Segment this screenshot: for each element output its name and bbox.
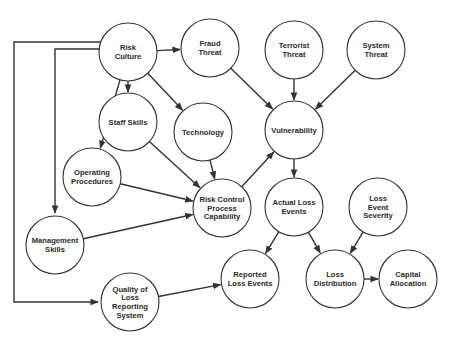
node-vulnerability: Vulnerability xyxy=(265,101,323,159)
node-label-line: Capability xyxy=(204,212,241,221)
edge-management-skills-to-risk-control xyxy=(83,215,192,239)
edge-loss-event-severity-to-loss-distribution xyxy=(350,232,363,253)
edge-actual-loss-events-to-loss-distribution xyxy=(308,232,320,253)
node-operating-procedures: OperatingProcedures xyxy=(63,148,121,206)
node-label-line: Threat xyxy=(198,48,222,57)
edge-technology-to-risk-control xyxy=(210,160,215,179)
node-management-skills: ManagementSkills xyxy=(26,216,84,274)
node-label-line: Threat xyxy=(364,50,388,59)
edge-fraud-threat-to-vulnerability xyxy=(231,68,273,109)
node-terrorist-threat: TerroristThreat xyxy=(265,21,323,79)
node-capital-allocation: CapitalAllocation xyxy=(379,250,437,308)
node-label-line: Technology xyxy=(182,128,225,137)
node-system-threat: SystemThreat xyxy=(347,21,405,79)
edge-system-threat-to-vulnerability xyxy=(316,70,356,109)
node-label-line: Skills xyxy=(45,245,65,254)
node-label-line: Culture xyxy=(115,52,142,61)
node-technology: Technology xyxy=(174,103,232,161)
node-label-line: Allocation xyxy=(390,279,427,288)
node-label-line: Procedures xyxy=(71,177,113,186)
node-label-line: Staff Skills xyxy=(109,118,148,127)
edge-risk-culture-to-technology xyxy=(148,73,183,110)
edge-actual-loss-events-to-reported-loss-events xyxy=(266,232,279,254)
node-loss-distribution: LossDistribution xyxy=(306,250,364,308)
edge-quality-loss-reporting-to-reported-loss-events xyxy=(159,285,221,297)
edge-operating-procedures-to-risk-control xyxy=(120,184,193,201)
edge-risk-control-to-vulnerability xyxy=(242,152,274,187)
edge-risk-culture-to-fraud-threat xyxy=(157,50,180,51)
node-actual-loss-events: Actual LossEvents xyxy=(265,178,323,236)
node-label-line: Vulnerability xyxy=(271,126,317,135)
node-quality-loss-reporting: Quality ofLossReportingSystem xyxy=(101,273,159,331)
node-reported-loss-events: ReportedLoss Events xyxy=(221,250,279,308)
node-risk-culture: RiskCulture xyxy=(99,23,157,81)
node-label-line: Loss Events xyxy=(228,279,273,288)
node-loss-event-severity: LossEventSeverity xyxy=(349,178,407,236)
node-fraud-threat: FraudThreat xyxy=(181,19,239,77)
node-label-line: System xyxy=(116,311,143,320)
node-label-line: Threat xyxy=(282,50,306,59)
node-label-line: Severity xyxy=(363,211,393,220)
node-risk-control: Risk ControlProcessCapability xyxy=(193,179,251,237)
node-label-line: Distribution xyxy=(314,279,357,288)
risk-causal-diagram: RiskCultureFraudThreatTerroristThreatSys… xyxy=(0,0,450,343)
node-label-line: Events xyxy=(282,207,307,216)
nodes-layer: RiskCultureFraudThreatTerroristThreatSys… xyxy=(26,19,437,331)
node-staff-skills: Staff Skills xyxy=(99,93,157,151)
